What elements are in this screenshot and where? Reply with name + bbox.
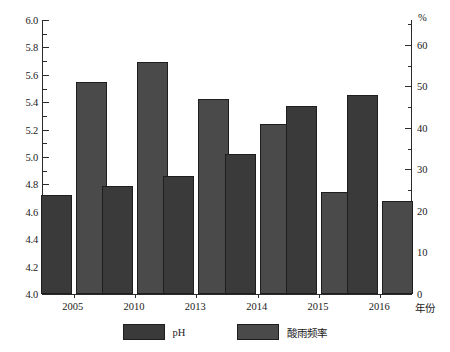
x-axis-tick-label: 2014: [246, 301, 267, 312]
left-axis-tick-label: 5.4: [25, 97, 38, 108]
x-axis-tick-label: 2010: [124, 301, 145, 312]
x-axis-title: 年份: [415, 300, 435, 315]
right-axis-tick-label: 30: [417, 164, 428, 175]
legend-item-frequency: 酸雨频率: [237, 324, 327, 340]
left-axis-tick-label: 4.4: [25, 234, 38, 245]
x-axis-tick-mark: [196, 294, 197, 298]
x-axis-tick-label: 2005: [62, 301, 83, 312]
bar-frequency: [382, 201, 413, 294]
left-axis-tick-label: 5.2: [25, 124, 38, 135]
legend-label: pH: [173, 327, 186, 338]
right-axis-tick-label: 10: [417, 247, 428, 258]
bar-ph: [347, 95, 378, 294]
bar-ph: [225, 154, 256, 294]
right-axis-tick-label: 0: [417, 289, 422, 300]
bar-group: [288, 20, 349, 294]
left-axis-tick-label: 4.8: [25, 179, 38, 190]
x-axis-tick-mark: [258, 294, 259, 298]
left-axis-tick-label: 4.6: [25, 206, 38, 217]
legend-swatch: [123, 324, 165, 340]
bar-group: [227, 20, 288, 294]
left-axis-tick-label: 5.0: [25, 152, 38, 163]
x-axis-tick-label: 2013: [185, 301, 206, 312]
left-axis-tick-label: 4.2: [25, 261, 38, 272]
x-axis-tick-mark: [74, 294, 75, 298]
legend-label: 酸雨频率: [287, 325, 327, 340]
legend-item-ph: pH: [123, 324, 186, 340]
left-axis-tick-label: 4.0: [25, 289, 38, 300]
acid-rain-bar-chart: % 年份 4.04.24.44.64.85.05.25.45.65.86.0 0…: [0, 0, 450, 352]
right-axis-tick-label: 40: [417, 122, 428, 133]
x-axis-tick-label: 2015: [308, 301, 329, 312]
x-axis-tick-mark: [319, 294, 320, 298]
bar-ph: [163, 176, 194, 294]
legend-swatch: [237, 324, 279, 340]
bar-ph: [286, 106, 317, 294]
right-axis-unit-label: %: [418, 12, 427, 23]
left-axis-tick-label: 5.8: [25, 42, 38, 53]
left-axis-tick-label: 5.6: [25, 69, 38, 80]
bar-ph: [102, 186, 133, 294]
plot-area: 4.04.24.44.64.85.05.25.45.65.86.0 010203…: [42, 20, 412, 295]
left-axis-tick-label: 6.0: [25, 15, 38, 26]
right-axis-tick-label: 50: [417, 81, 428, 92]
chart-legend: pH酸雨频率: [0, 324, 450, 340]
x-axis-tick-label: 2016: [369, 301, 390, 312]
bar-group: [350, 20, 411, 294]
left-axis-tick-mark: [43, 294, 49, 295]
bar-ph: [41, 195, 72, 294]
x-axis-tick-mark: [135, 294, 136, 298]
bar-group: [166, 20, 227, 294]
right-axis-tick-label: 60: [417, 39, 428, 50]
x-axis-tick-mark: [380, 294, 381, 298]
right-axis-tick-mark: [405, 294, 411, 295]
right-axis-tick-label: 20: [417, 205, 428, 216]
bar-group: [104, 20, 165, 294]
bar-group: [43, 20, 104, 294]
